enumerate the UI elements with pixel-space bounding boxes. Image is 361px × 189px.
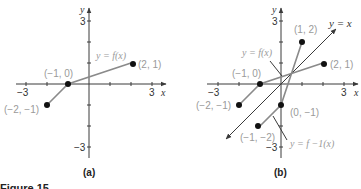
- f-label: y = f(x): [241, 47, 273, 59]
- f-inverse-pointer: [273, 116, 287, 140]
- label-1-2: (1, 2): [294, 24, 317, 35]
- caption-a: (a): [83, 167, 95, 178]
- y-axis-label: y: [271, 4, 277, 15]
- point-neg1-0: [257, 81, 263, 87]
- panel-b: −3 3 x 3 −3 y y = x (−2, −1) (−1, 0) (2,…: [196, 4, 359, 178]
- point-0-neg1: [278, 102, 284, 108]
- y-tick-neg: −3: [74, 142, 86, 153]
- x-tick-neg: −3: [208, 87, 220, 98]
- point-neg2-neg1: [44, 102, 50, 108]
- point-2-1: [130, 61, 136, 67]
- x-tick-neg: −3: [17, 87, 29, 98]
- y-tick-pos: 3: [80, 16, 86, 27]
- x-axis-label: x: [353, 87, 359, 98]
- point-neg2-neg1: [236, 102, 242, 108]
- label-2-1: (2, 1): [330, 59, 353, 70]
- label-0-neg1: (0, −1): [290, 107, 319, 118]
- label-neg1-neg2: (−1, −2): [240, 132, 275, 143]
- y-axis-label: y: [79, 4, 85, 15]
- f-label: y = f(x): [95, 50, 127, 62]
- label-neg2-neg1: (−2, −1): [4, 104, 39, 115]
- x-axis-label: x: [160, 87, 166, 98]
- label-2-1: (2, 1): [138, 59, 161, 70]
- panel-a: −3 3 x 3 −3 y (−2, −1) (−1, 0) (2, 1) y …: [4, 4, 166, 178]
- x-tick-pos: 3: [149, 87, 155, 98]
- label-neg2-neg1: (−2, −1): [196, 100, 231, 111]
- label-neg1-0: (−1, 0): [232, 68, 261, 79]
- x-tick-pos: 3: [341, 87, 347, 98]
- figure: −3 3 x 3 −3 y (−2, −1) (−1, 0) (2, 1) y …: [0, 0, 361, 189]
- f-inverse-label: y = f −1(x): [289, 138, 335, 150]
- point-neg1-neg2: [255, 123, 261, 129]
- label-neg1-0: (−1, 0): [44, 68, 73, 79]
- y-tick-pos: 3: [272, 16, 278, 27]
- point-2-1: [321, 61, 327, 67]
- point-1-2: [299, 39, 305, 45]
- figure-label: Figure 15: [0, 182, 49, 189]
- point-neg1-0: [65, 81, 71, 87]
- caption-b: (b): [274, 167, 287, 178]
- identity-label: y = x: [328, 17, 352, 29]
- y-tick-neg: −3: [266, 142, 278, 153]
